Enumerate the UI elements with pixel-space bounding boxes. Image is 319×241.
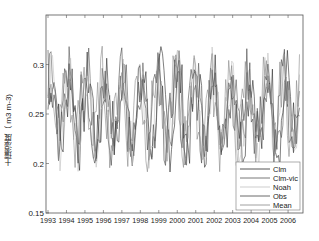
svg-text:1994: 1994 [58, 216, 74, 225]
svg-text:1999: 1999 [151, 216, 167, 225]
legend-label: Obs [273, 192, 287, 201]
svg-text:1998: 1998 [132, 216, 148, 225]
svg-text:0.25: 0.25 [28, 110, 44, 119]
svg-text:2005: 2005 [262, 216, 278, 225]
svg-text:1996: 1996 [95, 216, 111, 225]
legend-label: Clm [273, 165, 286, 174]
svg-text:2006: 2006 [280, 216, 296, 225]
legend-label: Clm-vic [273, 174, 298, 183]
svg-text:1995: 1995 [77, 216, 93, 225]
svg-text:0.2: 0.2 [33, 160, 45, 169]
svg-text:2003: 2003 [225, 216, 241, 225]
svg-text:2001: 2001 [188, 216, 204, 225]
svg-text:2000: 2000 [169, 216, 185, 225]
legend-label: Mean [273, 201, 292, 210]
line-chart: 0.150.20.250.3 1993199419951996199719981… [0, 0, 319, 241]
legend: ClmClm-vicNoahObsMean [236, 162, 300, 210]
legend-label: Noah [273, 183, 291, 192]
svg-text:1993: 1993 [40, 216, 56, 225]
svg-text:1997: 1997 [114, 216, 130, 225]
y-axis-label: 土壤湿度（ m3 m-3) [3, 80, 17, 180]
svg-text:2002: 2002 [206, 216, 222, 225]
svg-text:0.3: 0.3 [33, 61, 45, 70]
svg-text:2004: 2004 [243, 216, 259, 225]
